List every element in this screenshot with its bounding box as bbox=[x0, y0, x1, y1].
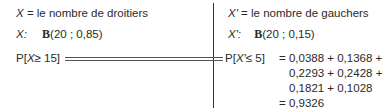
divider-vertical bbox=[213, 3, 214, 108]
right-law: X': B(20 ; 0,15) bbox=[228, 27, 315, 41]
equivalence-double-line bbox=[65, 57, 223, 61]
left-probability: P[X≥ 15] bbox=[16, 51, 60, 65]
binomial-symbol: B bbox=[42, 27, 50, 41]
right-definition: X' = le nombre de gauchers bbox=[228, 6, 369, 20]
left-prob-var: X bbox=[27, 52, 35, 64]
left-def-text: = le nombre de droitiers bbox=[27, 7, 148, 19]
left-law-params: (20 ; 0,85) bbox=[50, 28, 102, 40]
right-law-params: (20 ; 0,15) bbox=[262, 28, 314, 40]
right-prob-prefix: P[ bbox=[225, 52, 236, 64]
eq-line-1: = 0,0388 + 0,1368 + bbox=[279, 51, 382, 65]
eq-line-4: = 0,9326 bbox=[279, 96, 324, 110]
right-prob-rel: ≤ 5] bbox=[246, 52, 265, 64]
left-prob-rel: ≥ 15] bbox=[35, 52, 61, 64]
right-def-text: = le nombre de gauchers bbox=[241, 7, 369, 19]
right-prob-var: X' bbox=[236, 52, 246, 64]
left-prob-prefix: P[ bbox=[16, 52, 27, 64]
left-definition: X = le nombre de droitiers bbox=[16, 6, 148, 20]
left-law: X: B(20 ; 0,85) bbox=[16, 27, 103, 41]
left-law-var: X: bbox=[16, 28, 27, 40]
right-probability: P[X'≤ 5] bbox=[225, 51, 265, 65]
eq-line-3: 0,1821 + 0,1028 bbox=[289, 81, 372, 95]
right-def-var: X' bbox=[228, 7, 238, 19]
left-def-var: X bbox=[16, 7, 24, 19]
right-law-var: X': bbox=[228, 28, 241, 40]
eq-line-2: 0,2293 + 0,2428 + bbox=[289, 66, 382, 80]
